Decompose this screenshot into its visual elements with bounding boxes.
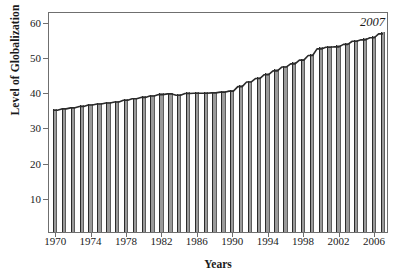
x-tick-label: 2006 [363,236,385,247]
y-tick-label: 40 [30,88,41,99]
y-tick-label: 20 [30,158,41,169]
x-tick-label: 1970 [44,236,66,247]
y-tick-label: 60 [30,17,41,28]
plot-area: 102030405060 197019741978198219861990199… [48,12,388,233]
globalization-chart: Level of Globalization Years 10203040506… [0,0,405,279]
y-tick-label: 50 [30,53,41,64]
annotation-2007: 2007 [360,15,385,30]
x-tick-label: 2002 [328,236,350,247]
trend-outline [49,13,387,232]
x-tick-label: 1994 [257,236,279,247]
x-axis-title: Years [48,258,388,270]
x-tick-label: 1974 [80,236,102,247]
x-tick-label: 1986 [186,236,208,247]
x-tick-label: 1990 [221,236,243,247]
x-tick-label: 1982 [150,236,172,247]
x-tick-label: 1998 [292,236,314,247]
y-axis-title: Level of Globalization [9,0,25,145]
x-tick-label: 1978 [115,236,137,247]
y-tick-label: 30 [30,123,41,134]
y-tick-label: 10 [30,193,41,204]
